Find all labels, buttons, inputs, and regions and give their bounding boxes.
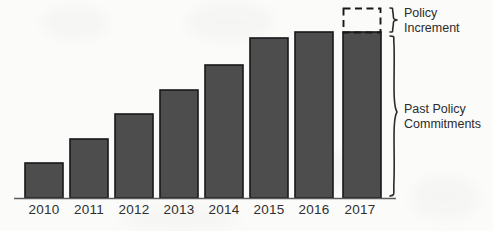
x-tick-2013: 2013 (164, 202, 195, 217)
bar-2017 (343, 32, 381, 198)
past-policy-label-line1: Past Policy (404, 102, 467, 116)
chart-canvas: 2010 2011 2012 2013 2014 2015 2016 2017 … (0, 0, 493, 231)
policy-increment-label-line1: Policy (404, 6, 438, 20)
x-tick-2010: 2010 (29, 202, 60, 217)
policy-increment-brace (390, 8, 397, 32)
bar-2014 (205, 65, 243, 198)
bar-series-past-policy-commitments (25, 32, 381, 198)
bar-2012 (115, 114, 153, 198)
bar-2017-policy-increment-dashed (344, 9, 381, 33)
bar-chart: 2010 2011 2012 2013 2014 2015 2016 2017 … (0, 0, 493, 231)
x-tick-2012: 2012 (119, 202, 150, 217)
x-tick-2017: 2017 (345, 202, 376, 217)
bar-2015 (250, 38, 288, 198)
x-tick-2011: 2011 (74, 202, 104, 217)
annotation-past-policy-commitments: Past Policy Commitments (404, 102, 481, 131)
bar-2016 (295, 32, 333, 198)
policy-increment-label-line2: Increment (404, 21, 460, 35)
bar-2013 (160, 90, 198, 198)
x-tick-2016: 2016 (299, 202, 330, 217)
past-policy-label-line2: Commitments (404, 117, 481, 131)
past-policy-commitments-brace (390, 36, 397, 196)
annotation-policy-increment: Policy Increment (404, 6, 460, 35)
bar-2011 (70, 139, 108, 198)
x-tick-2015: 2015 (254, 202, 285, 217)
x-axis-tick-labels: 2010 2011 2012 2013 2014 2015 2016 2017 (29, 202, 376, 217)
x-tick-2014: 2014 (209, 202, 240, 217)
bar-2010 (25, 163, 63, 198)
